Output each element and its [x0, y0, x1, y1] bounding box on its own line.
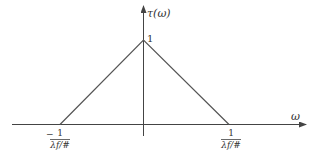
left-tick-numerator: 1	[57, 128, 63, 138]
triangle-curve	[60, 40, 229, 125]
peak-label: 1	[147, 33, 153, 44]
triangle-plot: τ(ω) 1 ω − 1 λf/# 1 λf/#	[0, 0, 315, 156]
x-axis-label: ω	[291, 110, 300, 123]
left-tick-sign: −	[46, 129, 54, 139]
right-tick-numerator: 1	[228, 128, 234, 138]
left-tick-denominator: λf/#	[49, 140, 70, 150]
y-axis-label: τ(ω)	[147, 7, 171, 20]
right-tick-denominator: λf/#	[220, 140, 241, 150]
